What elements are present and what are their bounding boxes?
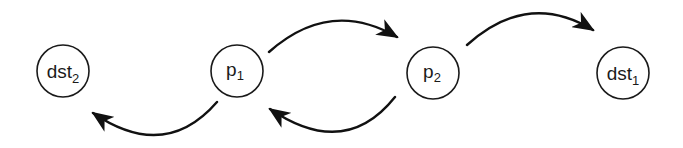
edge-p1-to-p2 xyxy=(269,21,397,52)
node-p2: p2 xyxy=(407,47,459,99)
node-dst2-subscript: 2 xyxy=(72,71,79,86)
diagram-canvas: dst2 p1 p2 dst1 xyxy=(0,0,683,148)
node-p2-subscript: 2 xyxy=(434,70,441,85)
node-p1-base: p xyxy=(226,59,237,80)
edge-p1-to-dst2 xyxy=(93,102,217,135)
node-dst1-subscript: 1 xyxy=(632,73,639,88)
node-dst1-base: dst xyxy=(607,63,633,84)
node-dst1: dst1 xyxy=(597,47,649,99)
node-p2-base: p xyxy=(423,61,434,82)
node-dst2-base: dst xyxy=(47,61,73,82)
node-p1-subscript: 1 xyxy=(237,68,244,83)
edge-p2-to-p1 xyxy=(270,97,395,132)
edge-p2-to-dst1 xyxy=(467,13,593,45)
node-dst2: dst2 xyxy=(37,45,89,97)
node-p1: p1 xyxy=(211,45,263,97)
